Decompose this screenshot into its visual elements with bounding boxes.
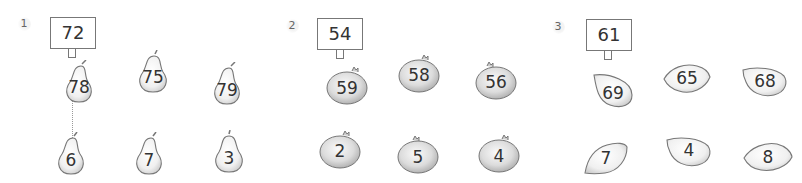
lemon-value: 65: [676, 68, 698, 88]
pomegranate-icon[interactable]: 56: [475, 61, 517, 101]
pomegranate-value: 2: [335, 141, 346, 161]
lemon-value: 4: [684, 140, 695, 160]
sign-post: [336, 50, 344, 59]
pear-value: 79: [216, 80, 238, 100]
sign-post: [604, 51, 612, 60]
sign-post: [68, 49, 76, 58]
lemon-icon[interactable]: 68: [742, 66, 788, 98]
pomegranate-value: 5: [413, 147, 424, 167]
lemon-icon[interactable]: 69: [592, 73, 634, 109]
pear-value: 75: [142, 67, 164, 87]
pear-value: 78: [68, 77, 90, 97]
problem-2: 2 54 59 58 56 2 5 4: [270, 0, 537, 183]
problem-number: 3: [551, 20, 565, 34]
lemon-value: 69: [602, 83, 624, 103]
pear-icon[interactable]: 78: [60, 60, 98, 104]
pomegranate-icon[interactable]: 58: [398, 54, 440, 94]
problem-number: 2: [285, 19, 299, 33]
target-sign: 61: [586, 19, 632, 51]
problem-number: 1: [17, 17, 31, 31]
pear-value: 7: [144, 150, 155, 170]
pomegranate-icon[interactable]: 4: [478, 134, 520, 174]
lemon-icon[interactable]: 65: [663, 63, 711, 95]
lemon-value: 68: [754, 71, 776, 91]
pear-value: 6: [66, 150, 77, 170]
pomegranate-value: 58: [408, 65, 430, 85]
problem-3: 3 61 69 65 68 7 4 8: [535, 0, 802, 183]
problem-1: 1 72 78 75 79 6 7 3: [0, 0, 267, 183]
lemon-icon[interactable]: 4: [666, 136, 712, 168]
pomegranate-value: 4: [494, 146, 505, 166]
target-sign: 72: [50, 17, 96, 49]
lemon-icon[interactable]: 7: [583, 141, 629, 175]
pomegranate-icon[interactable]: 2: [319, 130, 361, 170]
pear-icon[interactable]: 3: [210, 130, 248, 174]
pear-icon[interactable]: 7: [130, 132, 168, 176]
target-sign: 54: [317, 18, 363, 50]
lemon-icon[interactable]: 8: [743, 141, 793, 173]
pear-icon[interactable]: 79: [208, 62, 246, 106]
pear-value: 3: [224, 148, 235, 168]
pomegranate-icon[interactable]: 59: [326, 66, 368, 106]
pomegranate-icon[interactable]: 5: [397, 135, 439, 175]
pomegranate-value: 56: [485, 72, 507, 92]
lemon-value: 7: [601, 148, 612, 168]
lemon-value: 8: [763, 147, 774, 167]
pomegranate-value: 59: [336, 78, 358, 98]
pear-icon[interactable]: 75: [134, 50, 172, 94]
pear-icon[interactable]: 6: [52, 132, 90, 176]
